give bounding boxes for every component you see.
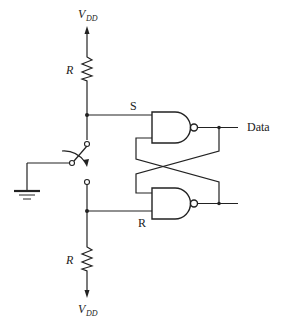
svg-text:R: R [65,63,74,77]
ground-icon [14,191,40,199]
data-output-label: Data [247,120,270,134]
svg-text:DD: DD [85,14,98,23]
resistor-bottom: R [65,245,92,273]
svg-text:DD: DD [85,309,98,318]
s-label: S [130,99,137,113]
svg-text:R: R [65,253,74,267]
nand-gate-top [152,112,198,143]
vdd-bottom-label: V DD [78,302,98,318]
nand-gate-bottom [152,188,198,219]
vdd-bottom-arrow-icon [85,273,90,298]
resistor-top: R [65,55,92,83]
vdd-top-label: V DD [78,7,98,23]
r-input-label: R [138,216,146,230]
debounce-latch-diagram: V DD R S R R [0,0,283,328]
vdd-top-arrow-icon [85,26,90,55]
